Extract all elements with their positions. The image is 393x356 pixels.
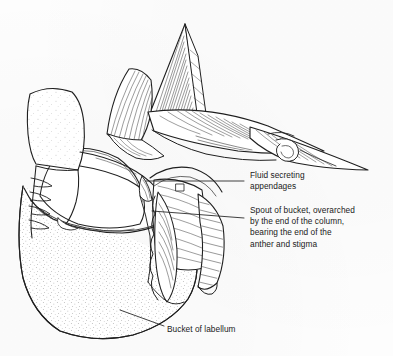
- spout-of-bucket-label: Spout of bucket, overarched by the end o…: [250, 205, 355, 250]
- orchid-illustration: [0, 0, 393, 356]
- fluid-secreting-appendages-label: Fluid secreting appendages: [250, 170, 305, 192]
- bucket-of-labellum-label: Bucket of labellum: [167, 324, 236, 335]
